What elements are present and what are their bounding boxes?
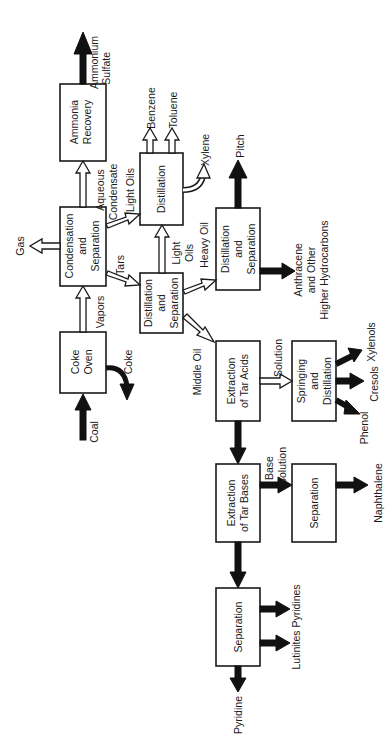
label-middle-oil: Middle Oil bbox=[191, 349, 203, 396]
box-extraction-tar-acids: Extraction of Tar Acids bbox=[216, 341, 260, 421]
arrow-anthracene-icon bbox=[260, 263, 295, 279]
arrow-pyridines-icon bbox=[260, 601, 290, 617]
label-coke: Coke bbox=[122, 350, 134, 375]
box-label: Distillation bbox=[142, 279, 154, 327]
box-label: Separation bbox=[89, 220, 101, 271]
box-label: Distillation bbox=[155, 165, 167, 213]
label-heavy-oil: Heavy Oil bbox=[198, 222, 210, 268]
label-anthracene-1: Anthracene bbox=[292, 243, 304, 297]
arrow-xylene-icon bbox=[183, 164, 210, 190]
box-label: Coke bbox=[69, 350, 81, 375]
box-label: Separation bbox=[245, 223, 257, 274]
coal-tar-process-diagram: Ammonia Recovery Condensation and Separa… bbox=[0, 0, 389, 735]
arrow-to-tar-bases-icon bbox=[230, 421, 246, 464]
box-separation-naphthalene: Separation bbox=[292, 464, 336, 542]
box-label: Ammonia bbox=[68, 100, 80, 145]
label-lutinites: Lutinites bbox=[290, 630, 302, 669]
label-solution-base: Solution bbox=[276, 447, 288, 485]
box-label: and bbox=[232, 240, 244, 258]
label-naphthalene: Naphthalene bbox=[372, 463, 384, 523]
arrow-heavy-oil-icon bbox=[183, 279, 216, 294]
label-coal: Coal bbox=[88, 421, 100, 443]
label-tars: Tars bbox=[114, 255, 126, 275]
label-gas: Gas bbox=[14, 236, 26, 255]
box-extraction-tar-bases: Extraction of Tar Bases bbox=[216, 464, 260, 542]
arrow-vapors-icon bbox=[76, 286, 90, 332]
arrow-middle-oil-icon bbox=[183, 314, 214, 342]
label-pitch: Pitch bbox=[234, 134, 246, 158]
label-pyridine: Pyridine bbox=[232, 696, 244, 734]
box-label: Condensation bbox=[63, 213, 75, 278]
label-cresols: Cresols bbox=[368, 366, 380, 402]
arrow-pyridine-icon bbox=[230, 666, 246, 692]
box-label: and bbox=[155, 294, 167, 312]
arrow-toluene-icon bbox=[165, 128, 179, 153]
arrow-naphthalene-icon bbox=[336, 477, 368, 493]
box-distillation-top: Distillation bbox=[140, 153, 183, 225]
arrow-xylenols-icon bbox=[336, 348, 362, 364]
box-label: Separation bbox=[232, 601, 244, 652]
label-phenol: Phenol bbox=[358, 412, 370, 445]
box-label: Distillation bbox=[219, 225, 231, 273]
box-label: Recovery bbox=[81, 99, 93, 144]
arrow-lutinites-icon bbox=[260, 635, 290, 651]
label-sulfate: Sulfate bbox=[100, 52, 112, 85]
label-light-oils-mid-1: Light bbox=[170, 242, 182, 265]
box-distillation-separation-mid: Distillation and Separation bbox=[140, 273, 183, 333]
label-anthracene-2: and Other bbox=[305, 246, 317, 293]
arrow-pitch-icon bbox=[229, 160, 247, 208]
arrow-phenol-icon bbox=[336, 400, 360, 414]
label-anthracene-3: Higher Hydrocarbons bbox=[318, 220, 330, 319]
label-condensate: Condensate bbox=[107, 164, 119, 221]
box-label: Extraction bbox=[225, 357, 237, 404]
label-xylenols: Xylenols bbox=[365, 322, 377, 362]
label-xylene: Xylene bbox=[199, 134, 211, 166]
box-label: Extraction bbox=[225, 479, 237, 526]
label-aqueous: Aqueous bbox=[94, 169, 106, 210]
label-ammonium: Ammonium bbox=[88, 36, 100, 89]
arrow-light-oils-mid-icon bbox=[155, 225, 169, 273]
box-condensation-separation: Condensation and Separation bbox=[60, 207, 106, 286]
arrow-cresols-icon bbox=[336, 373, 364, 389]
arrow-gas-icon bbox=[30, 239, 60, 253]
label-vapors: Vapors bbox=[94, 296, 106, 329]
box-label: Oven bbox=[82, 349, 94, 374]
label-pyridines: Pyridines bbox=[290, 584, 302, 627]
box-coke-oven: Coke Oven bbox=[60, 332, 106, 393]
label-toluene: Toluene bbox=[167, 91, 179, 128]
label-base: Base bbox=[263, 456, 275, 480]
box-label: and bbox=[76, 237, 88, 255]
box-springing-distillation: Springing and Distillation bbox=[292, 341, 336, 421]
arrow-to-pyridine-separation-icon bbox=[230, 542, 246, 588]
box-label: Distillation bbox=[321, 357, 333, 405]
label-benzene: Benzene bbox=[145, 87, 157, 129]
label-solution: Solution bbox=[272, 339, 284, 377]
box-label: of Tar Acids bbox=[238, 354, 250, 408]
box-ammonia-recovery: Ammonia Recovery bbox=[60, 84, 106, 161]
box-label: and bbox=[308, 372, 320, 390]
arrow-aqueous-condensate-icon bbox=[76, 161, 90, 207]
label-light-oils-top: Light Oils bbox=[124, 168, 136, 212]
box-label: of Tar Bases bbox=[238, 474, 250, 532]
box-label: Springing bbox=[295, 359, 307, 404]
box-separation-pyridine: Separation bbox=[216, 588, 260, 666]
arrow-benzene-icon bbox=[143, 128, 157, 153]
box-label: Separation bbox=[308, 477, 320, 528]
label-light-oils-mid-2: Oils bbox=[183, 244, 195, 262]
box-label: Separation bbox=[168, 277, 180, 328]
box-distillation-separation-right: Distillation and Separation bbox=[216, 208, 260, 290]
